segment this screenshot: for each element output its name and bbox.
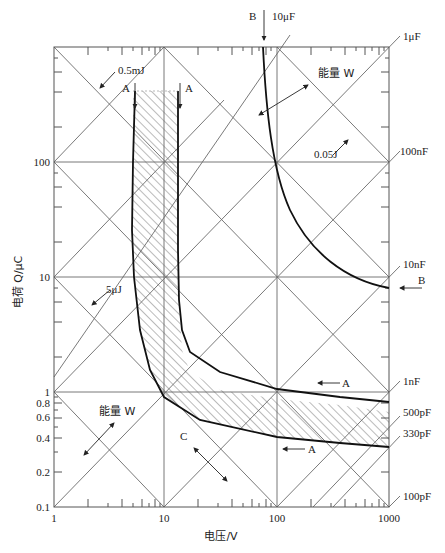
label-330pF: 330pF (403, 427, 431, 439)
label-0.05J: 0.05J (314, 148, 338, 160)
label-a-mid: A (342, 377, 350, 389)
line-1uF (54, 36, 400, 392)
label-c: C (180, 430, 187, 442)
label-5uJ: 5μJ (106, 283, 122, 295)
line-330pF (333, 436, 400, 507)
y-tick-0.8: 0.8 (36, 397, 50, 409)
x-tick-1000: 1000 (378, 512, 401, 524)
y-axis-title: 电荷 Q/μC (12, 255, 25, 308)
y-tick-0.2: 0.2 (36, 466, 50, 478)
x-tick-10: 10 (159, 512, 171, 524)
label-100pF: 100pF (403, 490, 431, 502)
label-a-low: A (308, 443, 316, 455)
x-tick-100: 100 (269, 512, 286, 524)
label-b-top: B (249, 10, 256, 22)
line-100pF (389, 496, 400, 507)
y-tick-0.4: 0.4 (36, 432, 50, 444)
label-500pF: 500pF (403, 406, 431, 418)
region-a-hatch (132, 91, 389, 447)
label-a-top-left: A (122, 82, 130, 94)
y-tick-100: 100 (34, 156, 51, 168)
label-energy-lower: 能量 W (99, 404, 135, 418)
label-1uF: 1μF (403, 30, 421, 42)
y-tick-0.1: 0.1 (36, 501, 50, 513)
label-energy-upper: 能量 W (318, 66, 354, 80)
label-10nF: 10nF (403, 258, 426, 270)
label-10uF: 10μF (272, 10, 295, 22)
label-b-right: B (418, 274, 425, 286)
label-a-top-right: A (185, 82, 193, 94)
y-tick-0.6: 0.6 (36, 411, 50, 423)
x-tick-1: 1 (51, 512, 57, 524)
line-100nF (54, 151, 400, 507)
y-tick-10: 10 (39, 271, 51, 283)
x-axis-title: 电压/V (204, 530, 238, 543)
label-0.5mJ: 0.5mJ (118, 64, 145, 76)
chart-canvas: 1 10 100 1000 100 10 1 0.8 0.6 0.4 0.2 0… (0, 0, 445, 553)
label-100nF: 100nF (400, 145, 428, 157)
curve-a-upper (178, 91, 389, 402)
label-1nF: 1nF (403, 375, 420, 387)
